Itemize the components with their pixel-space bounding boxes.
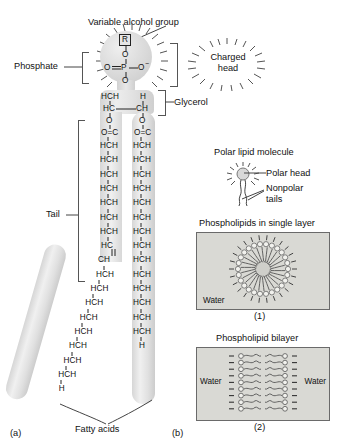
left-chain-methylene-3: HCH [100, 184, 118, 193]
right-chain-methylene-10: HCH [133, 284, 151, 293]
left-chain-methylene-4: HCH [100, 198, 118, 207]
panel2-title: Phospholipid bilayer [216, 333, 298, 343]
panel-tag-b: (b) [172, 428, 183, 438]
left-chain-methylene-6: HCH [100, 227, 118, 236]
panel1-micelle: Water [196, 232, 330, 310]
left-chain-lower-methylene-2: HCH [85, 298, 103, 307]
left-chain-lower-methylene-7: HCH [58, 370, 76, 379]
right-chain-methylene-9: HCH [133, 270, 151, 279]
right-chain-terminal-h: H [139, 341, 145, 350]
right-chain-methylene-4: HCH [133, 198, 151, 207]
left-chain-lower-methylene-4: HCH [74, 327, 92, 336]
panel2-bilayer: Water Water [196, 347, 330, 421]
label-fatty-acids: Fatty acids [75, 424, 119, 434]
panel-tag-a: (a) [10, 428, 21, 438]
label-tail: Tail [46, 209, 60, 219]
tail-bracket [78, 120, 85, 282]
right-chain-methylene-8: HCH [133, 255, 151, 264]
panel2-number: (2) [254, 422, 265, 432]
panel2-water-right-label: Water [304, 377, 326, 386]
left-chain-methylene-5: HCH [100, 213, 118, 222]
panel1-water-label: Water [203, 296, 225, 305]
right-chain-methylene-6: HCH [133, 227, 151, 236]
double-bond-cis [112, 249, 120, 256]
leader-lines-nonpolar-tails [240, 185, 266, 201]
right-chain-methylene-3: HCH [133, 184, 151, 193]
panel1-title: Phospholipids in single layer [199, 218, 315, 228]
leader-line-tail [66, 214, 78, 216]
left-chain-lower-methylene-1: HCH [91, 284, 109, 293]
left-chain-terminal-h: H [59, 384, 65, 393]
left-chain-lower-methylene-0: HCH [96, 270, 114, 279]
legend-nonpolar-line1: Nonpolar [266, 183, 303, 194]
right-chain-methylene-13: HCH [133, 327, 151, 336]
panel1-number: (1) [254, 311, 265, 321]
right-chain-methylene-5: HCH [133, 213, 151, 222]
right-chain-methylene-0: HCH [133, 141, 151, 150]
legend-nonpolar-line2: tails [266, 194, 303, 205]
legend-title-polar-lipid: Polar lipid molecule [214, 147, 294, 157]
right-chain-methylene-7: HCH [133, 241, 151, 250]
left-chain-lower-methylene-5: HCH [69, 341, 87, 350]
left-chain-methylene-1: HCH [100, 155, 118, 164]
left-chain-methylene-0: HCH [100, 141, 118, 150]
right-chain-methylene-2: HCH [133, 170, 151, 179]
figure-root: Variable alcohol group [0, 0, 337, 448]
right-chain-methylene-11: HCH [133, 298, 151, 307]
left-chain-lower-methylene-6: HCH [64, 356, 82, 365]
left-chain-methylene-2: HCH [100, 170, 118, 179]
panel2-water-left-label: Water [200, 377, 222, 386]
leader-line-polar-head [244, 172, 266, 174]
left-chain-unsaturated-carbon-2: CH [98, 255, 110, 264]
right-chain-methylene-12: HCH [133, 313, 151, 322]
legend-label-nonpolar-tails: Nonpolar tails [266, 183, 303, 204]
left-chain-lower-methylene-3: HCH [80, 313, 98, 322]
right-chain-methylene-1: HCH [133, 155, 151, 164]
leader-lines-fatty-acids [58, 398, 168, 426]
legend-label-polar-head: Polar head [266, 168, 310, 178]
